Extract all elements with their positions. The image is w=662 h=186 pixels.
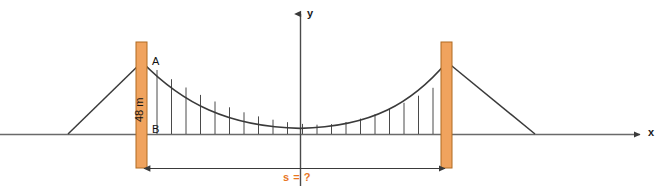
left-anchor-cable — [68, 62, 142, 134]
right-anchor-cable — [447, 62, 535, 134]
bridge-diagram: y x A B 48 m s = ? — [0, 0, 662, 186]
point-a-label: A — [152, 56, 159, 67]
main-cable — [142, 62, 447, 128]
right-tower — [441, 42, 452, 168]
hanger-cables — [157, 70, 433, 134]
span-label: s = ? — [283, 172, 311, 183]
diagram-canvas — [0, 0, 662, 186]
x-axis-label: x — [648, 127, 654, 138]
y-axis-label: y — [307, 8, 313, 19]
point-b-label: B — [152, 124, 159, 135]
tower-height-label: 48 m — [134, 98, 145, 122]
